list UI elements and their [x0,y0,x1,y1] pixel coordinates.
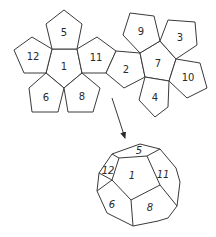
net-face-label: 2 [123,64,129,75]
net-face-label: 5 [61,27,67,38]
solid-face-label: 11 [157,169,170,180]
net-face-label: 8 [79,91,85,102]
fold-arrow [112,98,125,138]
net-face-label: 10 [182,72,195,83]
net-face-label: 3 [177,32,183,43]
net-face-label: 4 [152,92,158,103]
net-face-label: 11 [90,52,103,63]
folded-dodecahedron: 51211168 [97,144,180,226]
solid-face-label: 6 [109,199,115,210]
net-face-label: 7 [155,58,161,69]
net-face-label: 9 [138,26,144,37]
diagram-stage: 151268112793104 51211168 [0,0,216,237]
net-face-label: 1 [61,61,67,72]
solid-face-label: 12 [102,165,115,176]
net-face-label: 12 [27,51,40,62]
dodecahedron-diagram: 151268112793104 51211168 [0,0,216,237]
dodecahedron-net: 151268112793104 [14,10,207,117]
solid-face-label: 5 [136,145,142,156]
solid-face-label: 8 [147,202,153,213]
solid-face-label: 1 [129,170,135,181]
net-face-label: 6 [43,92,49,103]
